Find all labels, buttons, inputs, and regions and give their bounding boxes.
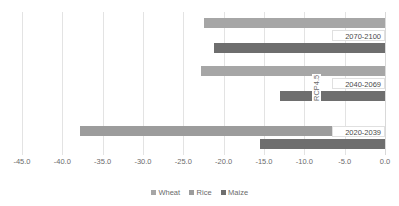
x-tick-label: -30.0: [134, 157, 151, 166]
legend-item-rice[interactable]: Rice: [189, 188, 212, 197]
data-label-2070-2100: 2070-2100: [332, 30, 385, 41]
x-axis: -45.0-40.0-35.0-30.0-25.0-20.0-15.0-10.0…: [0, 157, 399, 171]
x-tick-label: -40.0: [54, 157, 71, 166]
gridline: [62, 12, 63, 155]
legend-label: Rice: [197, 188, 212, 197]
data-label-2040-2069: 2040-2069: [332, 78, 385, 89]
legend-label: Wheat: [158, 188, 180, 197]
bar-chart: 2070-21002040-20692020-2039RCP4.5 -45.0-…: [0, 0, 399, 206]
bar-wheat-2040-2069: [201, 66, 385, 76]
x-tick-label: -35.0: [94, 157, 111, 166]
bar-maize-2070-2100: [214, 43, 385, 53]
x-tick-label: -10.0: [296, 157, 313, 166]
x-tick-label: -45.0: [13, 157, 30, 166]
legend-item-wheat[interactable]: Wheat: [151, 188, 180, 197]
x-tick-label: -25.0: [175, 157, 192, 166]
bar-maize-2040-2069: [280, 91, 385, 101]
chart-title: [50, 0, 350, 3]
bar-wheat-2070-2100: [204, 18, 386, 28]
y-axis-label: RCP4.5: [312, 74, 321, 102]
x-tick-label: -20.0: [215, 157, 232, 166]
legend-item-maize[interactable]: Maize: [221, 188, 249, 197]
legend-swatch-icon: [151, 190, 156, 195]
x-tick-label: -5.0: [338, 157, 351, 166]
legend-swatch-icon: [189, 190, 194, 195]
gridline: [22, 12, 23, 155]
bar-maize-2020-2039: [260, 139, 385, 149]
legend-label: Maize: [228, 188, 248, 197]
plot-area: 2070-21002040-20692020-2039RCP4.5: [22, 12, 385, 155]
x-tick-label: 0.0: [380, 157, 390, 166]
chart-legend: WheatRiceMaize: [0, 186, 399, 198]
data-label-2020-2039: 2020-2039: [332, 126, 385, 137]
legend-swatch-icon: [221, 190, 226, 195]
x-tick-label: -15.0: [255, 157, 272, 166]
axis-zero-line: [385, 12, 386, 155]
